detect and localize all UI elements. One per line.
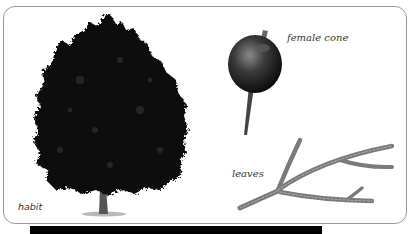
cone-lower-stem [244,86,254,135]
tree-icon [33,14,188,217]
label-habit: habit [18,201,42,212]
label-leaves: leaves [232,168,264,179]
cone-icon [228,30,282,135]
tree-canopy [33,14,188,196]
footer-title-bar [30,226,322,234]
label-female-cone: female cone [287,32,348,43]
cone-body [228,35,282,93]
botanical-illustration [0,0,414,234]
